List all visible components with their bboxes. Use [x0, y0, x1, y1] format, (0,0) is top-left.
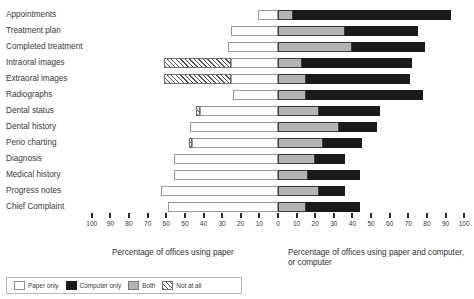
bar-segment-paper-only: [231, 26, 278, 36]
bar-segment-paper-only: [190, 122, 278, 132]
bar-segment-paper-only: [233, 90, 278, 100]
axis-tick: [277, 213, 279, 218]
bar-row: [0, 58, 474, 68]
paper-swatch-icon: [14, 281, 25, 290]
axis-title-right: Percentage of offices using paper and co…: [288, 248, 468, 268]
bar-row: [0, 26, 474, 36]
value-axis: 1009080706050403020100102030405060708090…: [0, 213, 474, 237]
axis-tick: [109, 213, 111, 218]
legend-item: Not at all: [162, 281, 201, 290]
bar-segment-paper-only: [161, 186, 278, 196]
plot-area: [0, 0, 474, 212]
diverging-bar-chart: AppointmentsTreatment planCompleted trea…: [0, 0, 474, 299]
bar-segment-not-at-all: [164, 74, 231, 84]
axis-tick: [203, 213, 205, 218]
axis-tick: [296, 213, 298, 218]
bar-row: [0, 202, 474, 212]
axis-tick-label: 100: [452, 220, 474, 227]
not-at-all-swatch-icon: [162, 281, 173, 290]
bar-segment-both: [278, 26, 345, 36]
legend-label: Computer only: [80, 282, 122, 289]
bar-segment-both: [278, 186, 319, 196]
bar-segment-both: [278, 90, 306, 100]
axis-tick: [128, 213, 130, 218]
bar-segment-both: [278, 74, 306, 84]
both-swatch-icon: [128, 281, 139, 290]
bar-segment-computer-only: [306, 90, 423, 100]
axis-tick: [426, 213, 428, 218]
bar-segment-paper-only: [168, 202, 278, 212]
axis-tick: [184, 213, 186, 218]
axis-tick: [221, 213, 223, 218]
axis-tick: [314, 213, 316, 218]
bar-segment-computer-only: [339, 122, 376, 132]
bar-row: [0, 138, 474, 148]
bar-segment-paper-only: [200, 106, 278, 116]
bar-segment-not-at-all: [189, 138, 193, 148]
bar-segment-both: [278, 106, 319, 116]
bar-segment-computer-only: [315, 154, 345, 164]
bar-row: [0, 154, 474, 164]
legend-item: Computer only: [66, 281, 122, 290]
bar-segment-paper-only: [228, 42, 278, 52]
bar-segment-both: [278, 10, 293, 20]
bar-row: [0, 170, 474, 180]
bar-row: [0, 106, 474, 116]
bar-segment-both: [278, 42, 352, 52]
bar-row: [0, 122, 474, 132]
bar-row: [0, 90, 474, 100]
axis-tick: [147, 213, 149, 218]
axis-tick: [389, 213, 391, 218]
bar-segment-paper-only: [174, 170, 278, 180]
bar-segment-both: [278, 122, 339, 132]
bar-segment-computer-only: [319, 186, 345, 196]
chart-legend: Paper onlyComputer onlyBothNot at all: [6, 277, 242, 294]
bar-row: [0, 42, 474, 52]
axis-tick: [240, 213, 242, 218]
bar-segment-computer-only: [306, 74, 410, 84]
axis-tick: [351, 213, 353, 218]
bar-segment-computer-only: [308, 170, 360, 180]
axis-tick: [91, 213, 93, 218]
axis-title-left: Percentage of offices using paper: [112, 248, 292, 258]
legend-label: Not at all: [176, 282, 201, 289]
bar-segment-computer-only: [302, 58, 412, 68]
axis-tick: [370, 213, 372, 218]
bar-segment-both: [278, 202, 306, 212]
bar-segment-not-at-all: [164, 58, 231, 68]
bar-segment-computer-only: [293, 10, 451, 20]
bar-segment-computer-only: [319, 106, 380, 116]
legend-item: Both: [128, 281, 155, 290]
axis-tick: [407, 213, 409, 218]
bar-row: [0, 186, 474, 196]
bar-segment-paper-only: [174, 154, 278, 164]
bar-segment-computer-only: [352, 42, 425, 52]
legend-item: Paper only: [14, 281, 59, 290]
bar-segment-paper-only: [231, 58, 278, 68]
axis-tick: [463, 213, 465, 218]
bar-segment-both: [278, 138, 323, 148]
bar-segment-both: [278, 154, 315, 164]
axis-tick: [165, 213, 167, 218]
legend-label: Paper only: [28, 282, 59, 289]
bar-segment-computer-only: [345, 26, 418, 36]
axis-tick: [445, 213, 447, 218]
legend-label: Both: [142, 282, 155, 289]
bar-row: [0, 10, 474, 20]
computer-swatch-icon: [66, 281, 77, 290]
bar-segment-not-at-all: [196, 106, 200, 116]
bar-segment-both: [278, 170, 308, 180]
axis-tick: [258, 213, 260, 218]
axis-tick: [333, 213, 335, 218]
bar-segment-paper-only: [231, 74, 278, 84]
bar-row: [0, 74, 474, 84]
bar-segment-computer-only: [323, 138, 362, 148]
bar-segment-both: [278, 58, 302, 68]
bar-segment-paper-only: [258, 10, 278, 20]
bar-segment-paper-only: [192, 138, 278, 148]
bar-segment-computer-only: [306, 202, 360, 212]
